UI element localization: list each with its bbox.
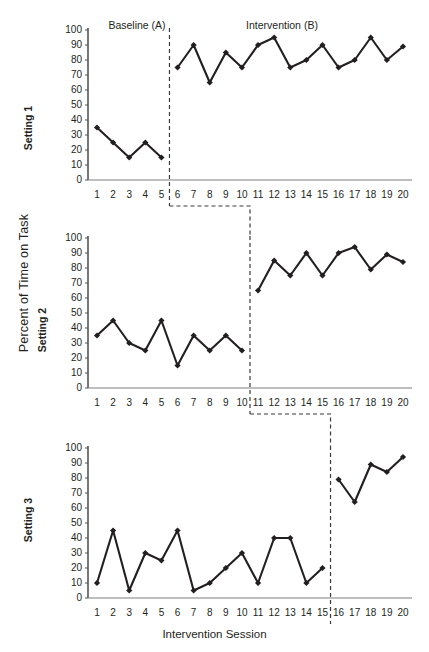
y-axis-tick-label: 30 [56,130,82,140]
data-point-marker [368,461,374,467]
y-axis-tick-label: 30 [56,338,82,348]
y-axis-tick-label: 40 [56,323,82,333]
y-axis-tick-label: 0 [56,383,82,393]
y-axis-tick-label: 70 [56,70,82,80]
y-axis-tick-label: 50 [56,100,82,110]
x-axis-label: Intervention Session [0,628,429,640]
y-axis-tick-label: 20 [56,563,82,573]
y-axis-tick-label: 80 [56,263,82,273]
panel-setting-3: Setting 3 100908070605040302010012345678… [0,432,429,632]
x-axis-tick-label: 20 [394,190,412,200]
panel-setting-1: Setting 1 Baseline (A) Intervention (B) … [0,14,429,214]
data-line-phase-1 [97,128,161,158]
data-line-phase-2 [258,247,403,291]
y-axis-tick-label: 10 [56,578,82,588]
y-axis-tick-label: 20 [56,145,82,155]
y-axis-tick-label: 90 [56,40,82,50]
y-axis-tick-label: 60 [56,85,82,95]
data-point-marker [110,527,116,533]
data-point-marker [400,259,406,265]
data-point-marker [142,550,148,556]
y-axis-tick-label: 40 [56,115,82,125]
data-point-marker [271,535,277,541]
y-axis-tick-label: 70 [56,278,82,288]
y-axis-tick-label: 30 [56,548,82,558]
y-axis-tick-label: 60 [56,503,82,513]
y-axis-tick-label: 80 [56,55,82,65]
y-axis-tick-label: 100 [56,443,82,453]
y-axis-tick-label: 40 [56,533,82,543]
data-line-phase-1 [97,321,242,366]
y-axis-tick-label: 100 [56,25,82,35]
data-point-marker [94,580,100,586]
y-axis-tick-label: 100 [56,233,82,243]
y-axis-tick-label: 50 [56,308,82,318]
data-point-marker [191,587,197,593]
x-axis-tick-label: 20 [394,398,412,408]
data-point-marker [126,587,132,593]
panel-setting-2: Setting 2 100908070605040302010012345678… [0,222,429,422]
y-axis-tick-label: 60 [56,293,82,303]
y-axis-tick-label: 10 [56,368,82,378]
y-axis-tick-label: 90 [56,458,82,468]
y-axis-tick-label: 70 [56,488,82,498]
y-axis-tick-label: 90 [56,248,82,258]
data-point-marker [287,535,293,541]
multiple-baseline-figure: Percent of Time on Task Setting 1 Baseli… [0,0,429,652]
y-axis-tick-label: 50 [56,518,82,528]
y-axis-tick-label: 0 [56,175,82,185]
data-line-phase-2 [178,38,403,83]
y-axis-tick-label: 80 [56,473,82,483]
y-axis-tick-label: 10 [56,160,82,170]
y-axis-tick-label: 0 [56,593,82,603]
y-axis-tick-label: 20 [56,353,82,363]
x-axis-tick-label: 20 [394,608,412,618]
